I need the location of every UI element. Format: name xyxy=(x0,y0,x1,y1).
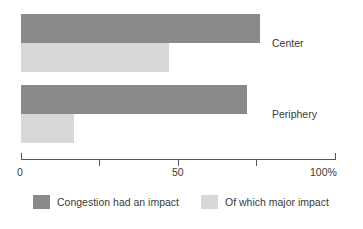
legend-label-congestion-impact: Congestion had an impact xyxy=(57,196,179,208)
chart-legend: Congestion had an impact Of which major … xyxy=(0,195,363,215)
legend-item-major-impact: Of which major impact xyxy=(201,195,329,209)
x-axis xyxy=(0,153,363,167)
x-axis-label-50: 50 xyxy=(172,166,184,178)
x-axis-tick-0 xyxy=(21,153,22,160)
bar-periphery-congestion-impact xyxy=(21,85,247,114)
bar-periphery-major-impact xyxy=(21,114,74,143)
category-label-center: Center xyxy=(272,37,304,49)
legend-swatch-dark-icon xyxy=(33,195,50,209)
x-axis-label-100: 100% xyxy=(310,166,337,178)
x-axis-label-0: 0 xyxy=(17,166,23,178)
legend-item-congestion-impact: Congestion had an impact xyxy=(33,195,179,209)
category-label-periphery: Periphery xyxy=(272,108,317,120)
bar-center-major-impact xyxy=(21,43,169,72)
x-axis-tick-50 xyxy=(178,159,179,166)
x-axis-tick-100 xyxy=(335,153,336,160)
legend-swatch-light-icon xyxy=(201,195,218,209)
plot-area: Center Periphery xyxy=(0,0,363,160)
bar-chart: Center Periphery 0 50 100% Congestion ha… xyxy=(0,0,363,229)
bar-center-congestion-impact xyxy=(21,14,260,43)
legend-label-major-impact: Of which major impact xyxy=(225,196,329,208)
x-axis-tick-75 xyxy=(256,159,257,166)
x-axis-tick-25 xyxy=(99,159,100,166)
